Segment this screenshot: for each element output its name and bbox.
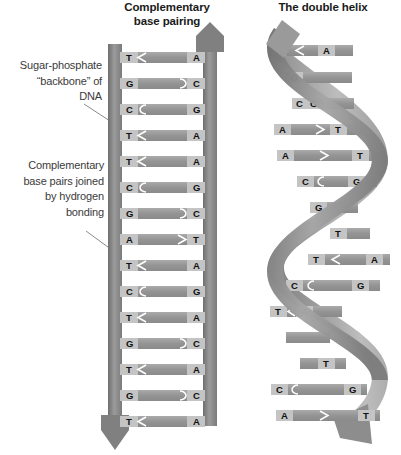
svg-text:G: G [126, 78, 133, 89]
ladder-rung: GC [120, 78, 205, 89]
svg-text:T: T [275, 306, 281, 317]
svg-text:G: G [126, 338, 133, 349]
ladder-rung: CG [120, 286, 205, 297]
svg-text:T: T [126, 416, 132, 427]
ladder-rung: AT [120, 234, 205, 245]
svg-text:A: A [279, 124, 286, 135]
helix-rung: TA [308, 254, 390, 265]
helix-rung: CG [271, 384, 367, 395]
ladder-rung: TA [120, 364, 205, 375]
ladder-rung: TA [120, 312, 205, 323]
svg-text:G: G [349, 384, 356, 395]
dna-figure: Complementary base pairing The double he… [0, 0, 401, 455]
ladder-rung: TA [120, 52, 205, 63]
helix-diagram: TA G CG AT AT CG G T TA CG TA T CG AT [266, 20, 390, 444]
ladder-diagram: TA GC CG TA TA CG GC AT TA CG TA GC TA G… [101, 22, 224, 450]
svg-text:T: T [335, 228, 341, 239]
ladder-rung: GC [120, 390, 205, 401]
svg-text:G: G [357, 280, 364, 291]
svg-text:A: A [281, 410, 288, 421]
ladder-rungs: TA GC CG TA TA CG GC AT TA CG TA GC TA G… [120, 52, 205, 427]
ladder-rung: TA [120, 130, 205, 141]
svg-text:G: G [193, 182, 200, 193]
svg-text:T: T [126, 364, 132, 375]
leader-lines [84, 104, 112, 250]
svg-text:C: C [193, 78, 200, 89]
svg-text:A: A [193, 130, 200, 141]
svg-text:A: A [193, 156, 200, 167]
svg-text:C: C [193, 338, 200, 349]
svg-text:T: T [126, 312, 132, 323]
svg-text:T: T [193, 234, 199, 245]
helix-rung: T [330, 228, 370, 239]
svg-text:C: C [126, 286, 133, 297]
svg-text:T: T [126, 130, 132, 141]
svg-text:A: A [323, 45, 330, 56]
helix-rung: AT [276, 410, 380, 421]
svg-text:A: A [193, 364, 200, 375]
svg-text:C: C [302, 176, 309, 187]
svg-text:C: C [296, 98, 303, 109]
svg-text:T: T [323, 358, 329, 369]
svg-text:A: A [282, 150, 289, 161]
svg-text:A: A [193, 260, 200, 271]
svg-text:T: T [357, 150, 363, 161]
svg-text:A: A [193, 416, 200, 427]
svg-text:A: A [126, 234, 133, 245]
ladder-rung: TA [120, 156, 205, 167]
svg-text:T: T [313, 254, 319, 265]
svg-text:T: T [126, 156, 132, 167]
svg-text:C: C [193, 390, 200, 401]
svg-text:C: C [126, 104, 133, 115]
dna-diagram-svg: TA GC CG TA TA CG GC AT TA CG TA GC TA G… [0, 0, 401, 455]
ladder-rung: GC [120, 208, 205, 219]
svg-text:A: A [193, 312, 200, 323]
svg-text:C: C [291, 280, 298, 291]
svg-text:C: C [126, 182, 133, 193]
svg-text:C: C [193, 208, 200, 219]
ladder-rung: TA [120, 416, 205, 427]
ladder-rung: CG [120, 182, 205, 193]
svg-text:T: T [126, 260, 132, 271]
helix-rung: T [300, 358, 346, 369]
svg-text:A: A [193, 52, 200, 63]
svg-text:T: T [335, 124, 341, 135]
helix-rung: CG [286, 280, 380, 291]
ladder-rung: CG [120, 104, 205, 115]
helix-rung: AT [277, 150, 377, 161]
svg-text:A: A [371, 254, 378, 265]
ladder-rung: GC [120, 338, 205, 349]
svg-text:G: G [193, 104, 200, 115]
svg-text:G: G [193, 286, 200, 297]
svg-text:G: G [126, 208, 133, 219]
ladder-rung: TA [120, 260, 205, 271]
svg-text:G: G [126, 390, 133, 401]
svg-text:T: T [126, 52, 132, 63]
svg-text:C: C [276, 384, 283, 395]
svg-text:T: T [363, 410, 369, 421]
